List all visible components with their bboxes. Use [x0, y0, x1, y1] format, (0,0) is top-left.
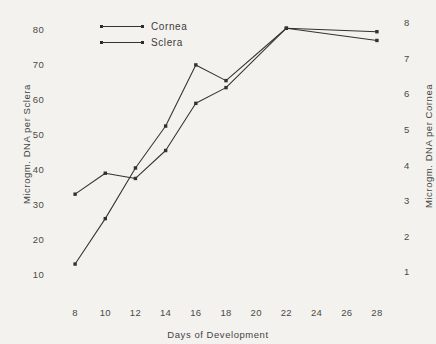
- series-sclera: [73, 27, 378, 266]
- data-point-cornea-16: [194, 102, 197, 105]
- legend-marker-cornea: [100, 22, 144, 31]
- data-point-sclera-8: [73, 262, 76, 265]
- y-tick-left-80: 80: [33, 25, 44, 35]
- data-point-cornea-14: [164, 149, 167, 152]
- x-tick-14: 14: [152, 308, 180, 318]
- data-point-sclera-18: [224, 79, 227, 82]
- y-tick-right-6: 6: [404, 89, 410, 99]
- data-point-sclera-12: [134, 166, 137, 169]
- legend-item-sclera: Sclera: [100, 36, 187, 49]
- legend-label-cornea: Cornea: [151, 22, 187, 32]
- x-tick-12: 12: [121, 308, 149, 318]
- x-tick-8: 8: [61, 308, 89, 318]
- data-point-sclera-10: [104, 217, 107, 220]
- chart-legend: Cornea Sclera: [100, 20, 187, 52]
- y-tick-left-60: 60: [33, 95, 44, 105]
- legend-marker-sclera: [100, 38, 144, 47]
- y-axis-left-title: Microgm. DNA per Sclera: [22, 84, 32, 204]
- y-tick-left-20: 20: [33, 235, 44, 245]
- data-point-cornea-12: [134, 177, 137, 180]
- y-tick-left-10: 10: [33, 270, 44, 280]
- plot-area: [0, 0, 436, 344]
- y-tick-left-50: 50: [33, 130, 44, 140]
- y-tick-left-40: 40: [33, 165, 44, 175]
- y-axis-right-title: Microgm. DNA per Cornea: [424, 84, 434, 208]
- x-tick-22: 22: [272, 308, 300, 318]
- x-tick-28: 28: [363, 308, 391, 318]
- legend-item-cornea: Cornea: [100, 20, 187, 33]
- y-tick-right-5: 5: [404, 125, 410, 135]
- x-tick-20: 20: [242, 308, 270, 318]
- y-tick-left-30: 30: [33, 200, 44, 210]
- chart-canvas: Cornea Sclera 1020304050607080 12345678 …: [0, 0, 436, 344]
- x-tick-10: 10: [91, 308, 119, 318]
- series-line-sclera: [75, 28, 377, 264]
- data-point-cornea-10: [104, 172, 107, 175]
- x-tick-26: 26: [333, 308, 361, 318]
- data-point-cornea-8: [73, 192, 76, 195]
- data-point-cornea-28: [375, 39, 378, 42]
- y-tick-right-1: 1: [404, 267, 410, 277]
- series-line-cornea: [75, 28, 377, 194]
- y-tick-right-7: 7: [404, 54, 410, 64]
- data-point-sclera-14: [164, 124, 167, 127]
- legend-label-sclera: Sclera: [151, 38, 183, 48]
- y-tick-left-70: 70: [33, 60, 44, 70]
- y-tick-right-2: 2: [404, 232, 410, 242]
- data-point-sclera-22: [285, 27, 288, 30]
- y-tick-right-8: 8: [404, 18, 410, 28]
- x-tick-18: 18: [212, 308, 240, 318]
- x-tick-24: 24: [303, 308, 331, 318]
- x-axis-title: Days of Development: [0, 330, 436, 340]
- x-tick-16: 16: [182, 308, 210, 318]
- data-point-cornea-18: [224, 86, 227, 89]
- data-point-sclera-28: [375, 30, 378, 33]
- data-point-sclera-16: [194, 63, 197, 66]
- y-tick-right-3: 3: [404, 196, 410, 206]
- y-tick-right-4: 4: [404, 161, 410, 171]
